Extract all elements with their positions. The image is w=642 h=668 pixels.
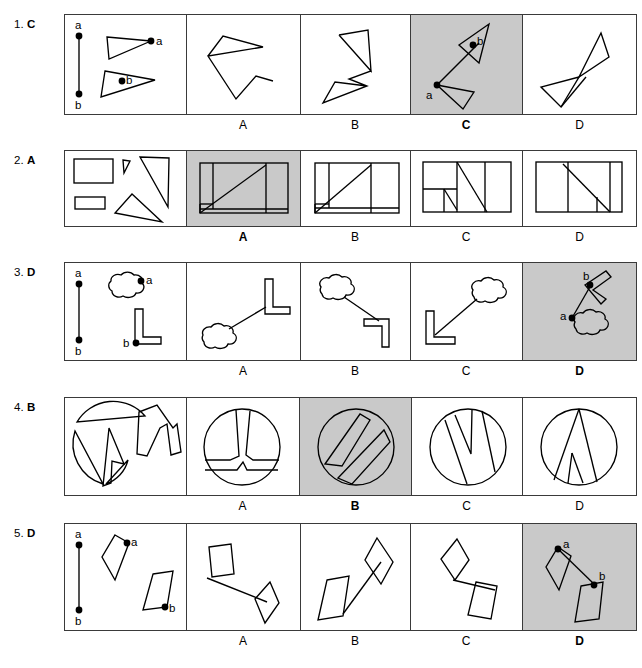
option-label-1-A: A	[186, 118, 300, 132]
option-label-strip-3: A B C D	[64, 364, 637, 378]
option-panel-5-C[interactable]	[411, 524, 523, 630]
point-b-dot	[162, 604, 169, 611]
option-label-1-D: D	[522, 118, 637, 132]
point-b-dot	[470, 42, 477, 49]
option-label-3-C: C	[410, 364, 522, 378]
svg-text:b: b	[75, 345, 81, 357]
svg-text:a: a	[75, 19, 82, 31]
svg-text:a: a	[156, 35, 163, 47]
svg-text:b: b	[583, 270, 589, 282]
stimulus-shape-triangle-a: a	[107, 35, 163, 59]
svg-text:b: b	[477, 35, 483, 47]
svg-text:a: a	[563, 538, 570, 550]
option-label-strip-5: A B C D	[64, 634, 637, 648]
option-label-2-D: D	[522, 230, 637, 244]
options-strip-4	[64, 397, 637, 496]
stimulus-panel-4	[65, 398, 187, 495]
svg-text:a: a	[426, 89, 433, 101]
question-number-2: 2.A	[14, 154, 36, 166]
svg-text:b: b	[75, 99, 81, 111]
svg-text:a: a	[560, 310, 567, 322]
option-panel-1-C[interactable]: a b	[411, 15, 523, 114]
option-panel-2-A[interactable]	[187, 151, 301, 226]
option-panel-2-C[interactable]	[411, 151, 523, 226]
svg-text:b: b	[75, 615, 81, 627]
option-label-strip-4: A B C D	[64, 499, 637, 513]
options-strip-3: a b a b	[64, 262, 637, 361]
option-label-1-B: B	[300, 118, 410, 132]
option-panel-1-A[interactable]	[187, 15, 301, 114]
point-b-dot	[119, 78, 126, 85]
svg-text:a: a	[131, 536, 138, 548]
option-panel-5-B[interactable]	[301, 524, 411, 630]
svg-text:a: a	[75, 528, 82, 540]
option-panel-4-A[interactable]	[187, 398, 301, 495]
option-panel-2-B[interactable]	[301, 151, 411, 226]
question-row-5: 5.D a b a	[0, 523, 642, 653]
point-a-dot	[434, 82, 441, 89]
stimulus-panel-5: a b a b	[65, 524, 187, 630]
reference-segment-1: a b	[75, 19, 82, 111]
point-b-dot	[133, 340, 140, 347]
point-b-dot	[591, 582, 598, 589]
option-panel-3-D[interactable]: a b	[523, 263, 636, 360]
point-a-dot	[148, 38, 155, 45]
option-panel-5-D[interactable]: a b	[523, 524, 636, 630]
svg-text:a: a	[146, 274, 153, 286]
option-panel-1-D[interactable]	[523, 15, 636, 114]
option-panel-3-C[interactable]	[411, 263, 523, 360]
question-number-1: 1.C	[14, 18, 36, 30]
stimulus-panel-2	[65, 151, 187, 226]
option-label-4-B: B	[299, 499, 411, 513]
option-label-2-C: C	[410, 230, 522, 244]
option-panel-4-C[interactable]	[412, 398, 524, 495]
options-strip-2	[64, 150, 637, 227]
option-label-4-C: C	[411, 499, 523, 513]
svg-text:b: b	[123, 337, 129, 349]
svg-text:a: a	[75, 267, 82, 279]
options-strip-5: a b a b	[64, 523, 637, 631]
option-panel-3-B[interactable]	[301, 263, 411, 360]
point-b-dot	[76, 607, 83, 614]
reference-segment-5: a b	[75, 528, 82, 627]
option-panel-1-B[interactable]	[301, 15, 411, 114]
svg-text:b: b	[169, 602, 175, 614]
stimulus-panel-3: a b a b	[65, 263, 187, 360]
option-panel-3-A[interactable]	[187, 263, 301, 360]
option-label-3-A: A	[186, 364, 300, 378]
option-label-3-D: D	[522, 364, 637, 378]
stimulus-shape-L-bar: b	[123, 309, 161, 349]
option-label-5-A: A	[186, 634, 300, 648]
option-label-strip-1: A B C D	[64, 118, 637, 132]
option-label-2-B: B	[300, 230, 410, 244]
option-label-5-D: D	[522, 634, 637, 648]
option-panel-4-D[interactable]	[523, 398, 636, 495]
option-label-5-C: C	[410, 634, 522, 648]
point-b-dot	[587, 282, 594, 289]
question-row-4: 4.B	[0, 397, 642, 519]
stimulus-shape-cloud: a	[109, 272, 153, 297]
question-row-2: 2.A	[0, 150, 642, 260]
option-panel-2-D[interactable]	[523, 151, 636, 226]
point-b-dot	[76, 337, 83, 344]
svg-text:b: b	[599, 570, 605, 582]
stimulus-shape-diamond: a	[102, 535, 138, 580]
point-a-dot	[124, 540, 131, 547]
point-a-dot	[555, 546, 562, 553]
options-strip-1: a b a b	[64, 14, 637, 115]
option-label-2-A: A	[186, 230, 300, 244]
stimulus-panel-1: a b a b	[65, 15, 187, 114]
question-number-4: 4.B	[14, 401, 36, 413]
question-row-3: 3.D a b a	[0, 262, 642, 382]
test-sheet: 1.C a b a	[0, 0, 642, 668]
question-row-1: 1.C a b a	[0, 14, 642, 140]
option-label-strip-2: A B C D	[64, 230, 637, 244]
option-label-5-B: B	[300, 634, 410, 648]
svg-text:b: b	[126, 74, 132, 86]
option-panel-4-B[interactable]	[300, 398, 412, 495]
point-a-dot	[569, 315, 576, 322]
option-panel-5-A[interactable]	[187, 524, 301, 630]
option-label-4-D: D	[522, 499, 637, 513]
stimulus-shape-triangle-b: b	[101, 71, 155, 97]
question-number-5: 5.D	[14, 527, 36, 539]
